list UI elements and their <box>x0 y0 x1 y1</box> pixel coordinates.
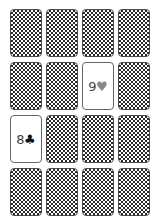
card-back-r2c1[interactable] <box>10 62 42 110</box>
card-back-r1c2[interactable] <box>46 9 78 57</box>
card-grid: 9 ♥ 8 ♣ <box>10 9 150 216</box>
card-back-r3c4[interactable] <box>118 115 150 163</box>
card-back-r2c2[interactable] <box>46 62 78 110</box>
card-rank: 9 <box>88 80 96 93</box>
card-face: 8 ♣ <box>16 133 35 146</box>
card-back-r3c3[interactable] <box>82 115 114 163</box>
card-back-r4c3[interactable] <box>82 168 114 216</box>
card-face: 9 ♥ <box>88 80 107 93</box>
club-icon: ♣ <box>24 133 36 146</box>
card-back-r4c1[interactable] <box>10 168 42 216</box>
card-eight-of-clubs[interactable]: 8 ♣ <box>10 115 42 163</box>
card-back-r1c4[interactable] <box>118 9 150 57</box>
heart-icon: ♥ <box>96 80 108 93</box>
card-back-r2c4[interactable] <box>118 62 150 110</box>
card-rank: 8 <box>16 133 24 146</box>
card-back-r1c3[interactable] <box>82 9 114 57</box>
card-back-r1c1[interactable] <box>10 9 42 57</box>
card-back-r4c2[interactable] <box>46 168 78 216</box>
card-back-r4c4[interactable] <box>118 168 150 216</box>
card-back-r3c2[interactable] <box>46 115 78 163</box>
card-nine-of-hearts[interactable]: 9 ♥ <box>82 62 114 110</box>
